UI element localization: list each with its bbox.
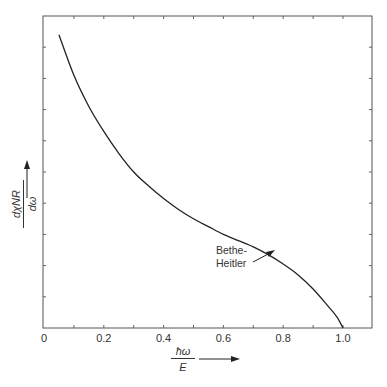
- x-axis-label: ħω E: [171, 345, 195, 373]
- annotation-line-1: Bethe-: [216, 244, 247, 257]
- x-label-numerator: ħω: [171, 345, 195, 359]
- chart-canvas: [0, 0, 387, 387]
- x-tick-label: 0.4: [156, 332, 171, 344]
- annotation-line-2: Heitler: [216, 257, 247, 270]
- y-label-numerator: dχNR: [10, 180, 24, 228]
- x-axis-arrow-icon: [199, 356, 240, 362]
- bethe-heitler-annotation: Bethe- Heitler: [216, 244, 247, 270]
- x-tick-label: 0.2: [96, 332, 111, 344]
- axis-ticks: [43, 16, 372, 328]
- x-label-denominator: E: [171, 359, 195, 373]
- y-label-denominator: dω: [24, 180, 38, 228]
- x-tick-label: 1.0: [335, 332, 350, 344]
- x-tick-label: 0: [41, 332, 47, 344]
- x-tick-label: 0.8: [276, 332, 291, 344]
- y-axis-label: dχNR dω: [10, 180, 38, 228]
- x-tick-label: 0.6: [216, 332, 231, 344]
- bethe-heitler-curve: [59, 35, 343, 328]
- plot-frame: [43, 16, 372, 328]
